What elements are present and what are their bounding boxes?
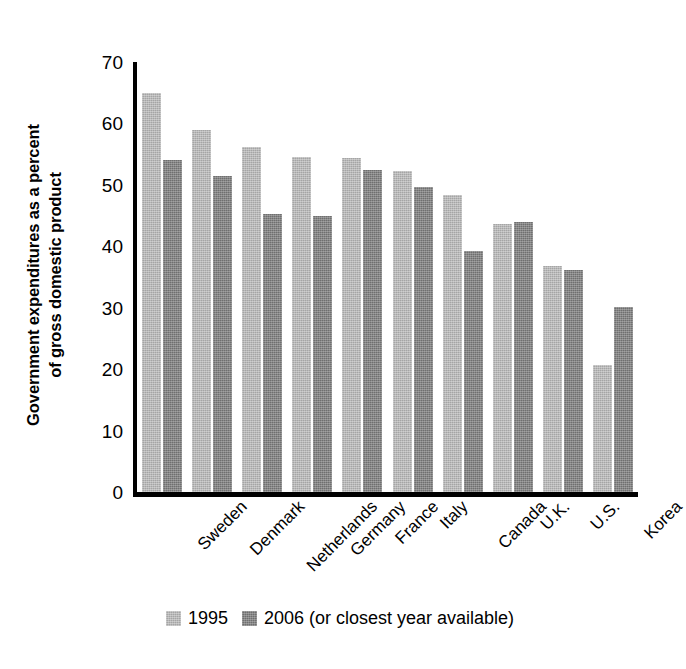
legend-color-swatch bbox=[242, 611, 257, 626]
bar bbox=[543, 266, 562, 492]
bar-group bbox=[142, 62, 182, 492]
legend-label: 1995 bbox=[188, 608, 228, 629]
bar bbox=[213, 176, 232, 492]
x-axis-tick-label: Italy bbox=[436, 497, 472, 533]
bars-container bbox=[137, 62, 638, 492]
x-axis-tick-labels: SwedenDenmarkNetherlandsGermanyFranceIta… bbox=[137, 497, 638, 597]
bar bbox=[593, 365, 612, 492]
x-axis-tick-label: U.S. bbox=[587, 497, 625, 535]
x-axis-tick-label: Denmark bbox=[246, 497, 309, 560]
bar bbox=[342, 158, 361, 492]
legend-item: 1995 bbox=[166, 608, 228, 629]
y-axis-tick-label: 20 bbox=[83, 360, 123, 379]
bar bbox=[263, 214, 282, 492]
x-axis-tick-label: Sweden bbox=[194, 497, 252, 555]
bar-group bbox=[342, 62, 382, 492]
bar bbox=[313, 216, 332, 492]
plot-area bbox=[133, 62, 638, 492]
legend-item: 2006 (or closest year available) bbox=[242, 608, 514, 629]
y-axis-tick-label: 70 bbox=[83, 53, 123, 72]
bar bbox=[443, 195, 462, 492]
bar bbox=[363, 170, 382, 492]
chart-legend: 19952006 (or closest year available) bbox=[0, 608, 680, 629]
bar bbox=[414, 187, 433, 492]
bar bbox=[514, 222, 533, 492]
bar-group bbox=[493, 62, 533, 492]
bar bbox=[393, 171, 412, 492]
bar bbox=[242, 147, 261, 492]
legend-label: 2006 (or closest year available) bbox=[264, 608, 514, 629]
bar bbox=[142, 93, 161, 492]
bar-group bbox=[443, 62, 483, 492]
y-axis-tick-label: 60 bbox=[83, 114, 123, 133]
y-axis-title-line1: Government expenditures as a percent bbox=[24, 124, 42, 426]
y-axis-tick-labels: 010203040506070 bbox=[79, 62, 123, 492]
bar-group bbox=[292, 62, 332, 492]
y-axis-title-text: Government expenditures as a percent of … bbox=[22, 124, 67, 426]
y-axis-tick-label: 10 bbox=[83, 421, 123, 440]
bar-group bbox=[192, 62, 232, 492]
y-axis-tick-label: 0 bbox=[83, 483, 123, 502]
bar-group bbox=[242, 62, 282, 492]
bar-group bbox=[593, 62, 633, 492]
bar bbox=[192, 130, 211, 492]
y-axis-tick-label: 40 bbox=[83, 237, 123, 256]
y-axis-title-line2: of gross domestic product bbox=[44, 124, 66, 426]
y-axis-title: Government expenditures as a percent of … bbox=[14, 55, 74, 495]
bar-group bbox=[393, 62, 433, 492]
bar bbox=[564, 270, 583, 492]
bar bbox=[292, 157, 311, 492]
x-axis-tick-label: Korea bbox=[640, 497, 686, 543]
bar bbox=[614, 307, 633, 492]
bar bbox=[163, 160, 182, 492]
bar-group bbox=[543, 62, 583, 492]
bar bbox=[493, 224, 512, 492]
bar bbox=[464, 251, 483, 492]
y-axis-tick-label: 30 bbox=[83, 298, 123, 317]
legend-color-swatch bbox=[166, 611, 181, 626]
y-axis-tick-label: 50 bbox=[83, 175, 123, 194]
